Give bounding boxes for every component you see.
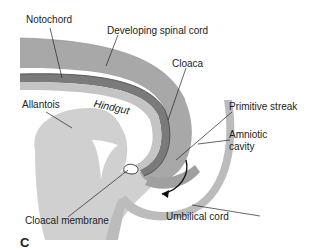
label-developing-spinal-cord: Developing spinal cord [107,25,208,36]
label-amniotic-cavity-line2: cavity [229,141,255,152]
label-allantois: Allantois [22,99,60,110]
label-primitive-streak: Primitive streak [229,101,297,112]
panel-letter: C [20,235,29,250]
embryo-hindgut-diagram: Notochord Developing spinal cord Cloaca … [0,0,319,252]
label-umbilical-cord: Umbilical cord [166,211,229,222]
label-notochord: Notochord [26,14,72,25]
label-cloacal-membrane: Cloacal membrane [25,215,109,226]
label-amniotic-cavity-line1: Amniotic [229,129,267,140]
cloacal-membrane-shape [124,164,138,174]
label-cloaca: Cloaca [172,58,203,69]
